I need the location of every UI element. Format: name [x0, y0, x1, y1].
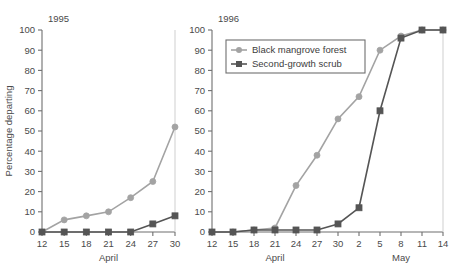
y-tick-label-left-70: 70 — [24, 85, 35, 96]
legend-label-second-growth-scrub: Second-growth scrub — [252, 58, 342, 69]
y-tick-label-left-20: 20 — [24, 186, 35, 197]
y-tick-label-right-0: 0 — [200, 226, 205, 237]
data-point-right-second-growth-scrub-12 — [209, 229, 215, 235]
data-point-right-second-growth-scrub-2 — [356, 205, 362, 211]
x-tick-label-right-27: 27 — [312, 238, 323, 249]
data-point-right-second-growth-scrub-24 — [293, 227, 299, 233]
y-tick-label-left-0: 0 — [30, 226, 35, 237]
x-tick-label-left-21: 21 — [103, 238, 114, 249]
x-tick-label-right-15: 15 — [228, 238, 239, 249]
x-tick-label-right-21: 21 — [270, 238, 281, 249]
data-point-left-second-growth-scrub-21 — [106, 229, 112, 235]
x-axis-month-label-right-may: May — [392, 252, 410, 263]
x-tick-label-right-18: 18 — [249, 238, 260, 249]
panel-title-right: 1996 — [218, 13, 239, 24]
data-point-right-black-mangrove-forest-2 — [356, 94, 362, 100]
y-tick-label-left-10: 10 — [24, 206, 35, 217]
legend-marker-square-icon — [236, 61, 242, 67]
data-point-right-black-mangrove-forest-5 — [377, 47, 383, 53]
legend-label-black-mangrove-forest: Black mangrove forest — [252, 44, 347, 55]
legend-marker-circle-icon — [236, 47, 242, 53]
y-tick-label-right-90: 90 — [194, 45, 205, 56]
y-tick-label-right-80: 80 — [194, 65, 205, 76]
x-tick-label-right-11: 11 — [417, 238, 427, 249]
data-point-right-second-growth-scrub-18 — [251, 227, 257, 233]
data-point-right-black-mangrove-forest-27 — [314, 152, 320, 158]
x-tick-label-left-24: 24 — [125, 238, 136, 249]
x-tick-label-left-30: 30 — [170, 238, 181, 249]
y-tick-label-right-20: 20 — [194, 186, 205, 197]
x-tick-label-right-30: 30 — [333, 238, 344, 249]
x-tick-label-right-5: 5 — [377, 238, 382, 249]
data-point-right-second-growth-scrub-5 — [377, 108, 383, 114]
y-tick-label-right-60: 60 — [194, 105, 205, 116]
y-axis-label: Percentage departing — [3, 86, 14, 177]
x-tick-label-right-14: 14 — [438, 238, 449, 249]
data-point-right-black-mangrove-forest-24 — [293, 183, 299, 189]
data-point-left-second-growth-scrub-24 — [128, 229, 134, 235]
data-point-right-second-growth-scrub-8 — [398, 35, 404, 41]
data-point-left-second-growth-scrub-27 — [150, 221, 156, 227]
data-point-right-second-growth-scrub-27 — [314, 227, 320, 233]
y-tick-label-right-70: 70 — [194, 85, 205, 96]
data-point-left-black-mangrove-forest-24 — [128, 195, 134, 201]
y-tick-label-left-80: 80 — [24, 65, 35, 76]
data-point-left-black-mangrove-forest-30 — [172, 124, 178, 130]
y-tick-label-left-30: 30 — [24, 166, 35, 177]
data-point-left-black-mangrove-forest-18 — [83, 213, 89, 219]
data-point-left-second-growth-scrub-12 — [39, 229, 45, 235]
x-tick-label-left-15: 15 — [59, 238, 70, 249]
y-tick-label-right-50: 50 — [194, 125, 205, 136]
y-tick-label-left-100: 100 — [19, 24, 35, 35]
data-point-left-black-mangrove-forest-27 — [150, 179, 156, 185]
x-tick-label-right-24: 24 — [291, 238, 302, 249]
y-tick-label-left-40: 40 — [24, 146, 35, 157]
y-tick-label-right-40: 40 — [194, 146, 205, 157]
x-tick-label-right-8: 8 — [398, 238, 403, 249]
x-tick-label-left-18: 18 — [81, 238, 92, 249]
x-tick-label-right-12: 12 — [207, 238, 218, 249]
x-tick-label-left-27: 27 — [148, 238, 159, 249]
y-tick-label-right-100: 100 — [189, 24, 205, 35]
x-axis-month-label-right-april: April — [265, 252, 284, 263]
data-point-right-second-growth-scrub-21 — [272, 227, 278, 233]
x-axis-month-label-left-april: April — [99, 252, 118, 263]
data-point-right-second-growth-scrub-14 — [440, 27, 446, 33]
x-tick-label-left-12: 12 — [37, 238, 48, 249]
y-tick-label-right-30: 30 — [194, 166, 205, 177]
y-tick-label-left-60: 60 — [24, 105, 35, 116]
panel-title-left: 1995 — [48, 13, 69, 24]
data-point-right-second-growth-scrub-30 — [335, 221, 341, 227]
figure-container: 1995010203040506070809010012151821242730… — [0, 0, 454, 273]
two-panel-line-chart: 1995010203040506070809010012151821242730… — [0, 0, 454, 273]
data-point-left-second-growth-scrub-18 — [83, 229, 89, 235]
y-tick-label-left-50: 50 — [24, 125, 35, 136]
data-point-left-black-mangrove-forest-21 — [106, 209, 112, 215]
data-point-left-second-growth-scrub-15 — [61, 229, 67, 235]
y-tick-label-right-10: 10 — [194, 206, 205, 217]
data-point-left-second-growth-scrub-30 — [172, 213, 178, 219]
panel-left: 1995010203040506070809010012151821242730… — [19, 13, 180, 263]
data-point-left-black-mangrove-forest-15 — [61, 217, 67, 223]
legend: Black mangrove forestSecond-growth scrub — [226, 40, 365, 73]
data-point-right-second-growth-scrub-11 — [419, 27, 425, 33]
y-tick-label-left-90: 90 — [24, 45, 35, 56]
data-point-right-black-mangrove-forest-30 — [335, 116, 341, 122]
x-tick-label-right-2: 2 — [356, 238, 361, 249]
data-point-right-second-growth-scrub-15 — [230, 229, 236, 235]
